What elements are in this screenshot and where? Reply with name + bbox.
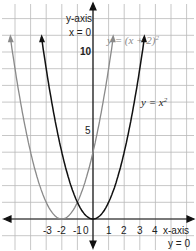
x-tick-minus3: -3 [43, 225, 52, 236]
parabola-chart: y-axis x = 0 10 5 -3 -2 -1 0 1 2 3 4 x-a… [0, 0, 196, 251]
x-axis-left-arrow-icon [4, 216, 11, 222]
y-tick-10: 10 [80, 46, 92, 57]
y-axis-label: y-axis [66, 13, 92, 24]
x-tick-3: 3 [137, 225, 143, 236]
x-tick-1: 1 [106, 225, 112, 236]
base-curve-label: y = x2 [140, 96, 168, 108]
x-tick-2: 2 [121, 225, 127, 236]
x-axis-equation: y = 0 [168, 238, 190, 249]
y-tick-5: 5 [85, 125, 91, 136]
x-tick-minus2: -2 [57, 225, 66, 236]
x-axis-right-arrow-icon [187, 216, 194, 222]
y-axis-up-arrow-icon [90, 3, 96, 10]
y-axis-down-arrow-icon [90, 241, 96, 248]
x-axis-label: x-axis [163, 225, 189, 236]
y-axis-equation: x = 0 [69, 27, 91, 38]
shifted-curve-label: y = (x + 2)2 [106, 34, 159, 47]
x-tick-minus1: -1 [73, 225, 82, 236]
x-tick-0: 0 [83, 225, 89, 236]
x-tick-4: 4 [152, 225, 158, 236]
